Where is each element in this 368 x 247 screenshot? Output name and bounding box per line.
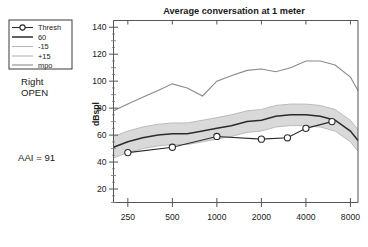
thresh-point-marker	[284, 135, 290, 141]
mode-label: OPEN	[21, 87, 48, 98]
x-tick-label: 4000	[296, 212, 315, 222]
y-tick-label: 60	[97, 130, 107, 140]
legend-label-thresh: Thresh	[38, 23, 61, 32]
aai-label: AAI = 91	[18, 152, 55, 163]
y-tick-label: 120	[92, 49, 107, 59]
y-tick-label: 40	[97, 157, 107, 167]
legend-circle-icon	[20, 25, 25, 30]
x-tick-label: 500	[165, 212, 180, 222]
plot-area: 204060801001201402505001000200040008000	[92, 21, 360, 222]
y-tick-label: 100	[92, 76, 107, 86]
chart-screenshot: Average conversation at 1 meter Thresh 6…	[0, 0, 368, 247]
thresh-point-marker	[303, 125, 309, 131]
y-tick-label: 80	[97, 103, 107, 113]
x-tick-label: 1000	[207, 212, 226, 222]
legend-label-60: 60	[38, 33, 46, 42]
chart-title: Average conversation at 1 meter	[163, 6, 305, 16]
legend-label-minus15: -15	[38, 42, 49, 51]
thresh-point-marker	[125, 150, 131, 156]
x-tick-label: 250	[121, 212, 136, 222]
thresh-point-marker	[329, 119, 335, 125]
legend-label-mpo: mpo	[38, 61, 52, 70]
x-tick-label: 2000	[252, 212, 271, 222]
y-tick-label: 140	[92, 22, 107, 32]
thresh-point-marker	[169, 144, 175, 150]
x-tick-label: 8000	[341, 212, 360, 222]
thresh-point-marker	[214, 133, 220, 139]
ear-label: Right	[21, 76, 44, 87]
series-mpo-line	[114, 61, 359, 111]
thresh-point-marker	[258, 136, 264, 142]
chart-svg: Average conversation at 1 meter Thresh 6…	[0, 0, 368, 247]
legend-label-plus15: +15	[38, 52, 51, 61]
y-tick-label: 20	[97, 184, 107, 194]
